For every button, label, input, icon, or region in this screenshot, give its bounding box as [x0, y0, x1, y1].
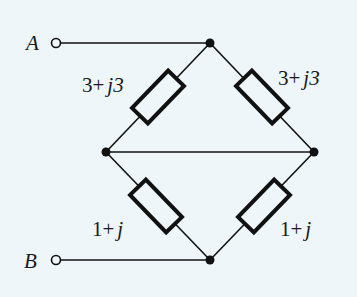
impedance-z1-label: 3+j3 [82, 73, 124, 97]
node-left [102, 148, 111, 157]
circuit-diagram: A B 3+j3 3+j3 1+j 1+j [0, 0, 357, 297]
impedance-z2-label: 3+j3 [278, 66, 320, 90]
impedance-z3-label: 1+j [92, 217, 123, 241]
impedance-z3 [130, 180, 182, 233]
terminal-a [52, 39, 61, 48]
impedance-z1 [132, 71, 184, 124]
terminal-a-label: A [24, 31, 39, 55]
node-bottom [206, 256, 215, 265]
impedance-z4-label: 1+j [280, 217, 311, 241]
terminal-b [52, 256, 61, 265]
node-top [206, 39, 215, 48]
node-right [310, 148, 319, 157]
terminal-b-label: B [24, 249, 37, 273]
